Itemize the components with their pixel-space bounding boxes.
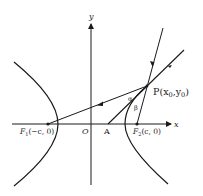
angle-beta-label: β (134, 104, 138, 112)
y-axis-label: y (88, 12, 94, 21)
point-f2 (135, 122, 138, 125)
incident-ray (137, 28, 163, 124)
reflected-arrow-icon (97, 102, 103, 107)
point-p-label: P(x0,y0) (153, 86, 189, 99)
origin-label: O (82, 127, 89, 136)
x-axis-label: x (174, 120, 179, 129)
point-p (146, 85, 149, 88)
angle-alpha-label: α (128, 95, 133, 103)
f1-label: F1(−c, 0) (19, 127, 54, 137)
point-a-label: A (103, 127, 110, 136)
hyperbola-diagram: y x O F1(−c, 0) F2(c, 0) A P(x0,y0) α β (0, 0, 203, 196)
point-f1 (46, 122, 49, 125)
reflected-ray (48, 86, 147, 124)
f2-label: F2(c, 0) (132, 127, 161, 137)
